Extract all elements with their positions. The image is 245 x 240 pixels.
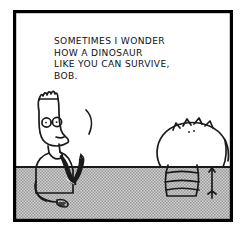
comic-stage: SOMETIMES I WONDER HOW A DINOSAUR LIKE Y… <box>0 0 245 240</box>
comic-artwork <box>13 10 233 222</box>
comic-panel: SOMETIMES I WONDER HOW A DINOSAUR LIKE Y… <box>13 10 233 222</box>
comic-title: Dilbert comic panel <box>0 0 1 1</box>
